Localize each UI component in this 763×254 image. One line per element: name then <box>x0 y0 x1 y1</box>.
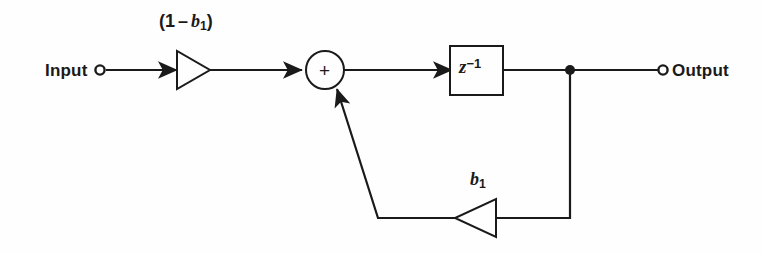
feedback-gain-label-subscript: 1 <box>479 177 486 191</box>
input-terminal-node <box>95 65 104 74</box>
input-terminal-label: Input <box>45 62 88 79</box>
summing-junction-plus-sign: + <box>319 61 330 80</box>
forward-gain-label-minus: – <box>175 11 191 31</box>
wire-feedback-gain-to-summer <box>337 89 455 218</box>
forward-gain-label-one: 1 <box>165 11 175 31</box>
forward-gain-label: (1–b1) <box>159 12 213 33</box>
unit-delay-label-exponent: −1 <box>466 56 481 71</box>
feedback-gain-triangle <box>455 199 496 237</box>
wire-output-tap-to-feedback-gain <box>496 70 570 218</box>
forward-gain-label-close: ) <box>207 11 213 31</box>
forward-gain-triangle <box>177 51 210 89</box>
forward-gain-label-subscript: 1 <box>200 19 207 33</box>
feedback-gain-label: b1 <box>470 170 486 191</box>
unit-delay-label: z−1 <box>459 57 481 76</box>
output-terminal-label: Output <box>672 62 729 79</box>
feedback-gain-label-var: b <box>470 169 479 189</box>
forward-gain-label-var: b <box>191 11 200 31</box>
output-terminal-node <box>658 65 667 74</box>
block-diagram-svg <box>0 0 763 254</box>
figure-canvas: Input Output (1–b1) z−1 b1 + <box>0 0 763 254</box>
